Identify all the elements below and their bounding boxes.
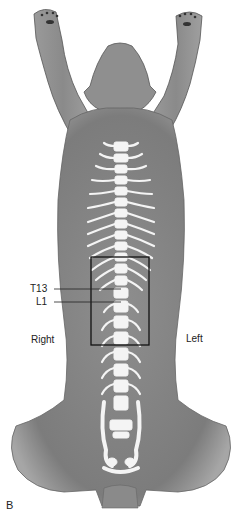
label-left: Left <box>186 334 203 344</box>
label-l1: L1 <box>36 297 47 307</box>
front-leg-left <box>150 12 202 130</box>
label-t13: T13 <box>30 284 47 294</box>
cat-body-illustration <box>0 0 244 518</box>
head <box>84 43 156 110</box>
panel-label: B <box>6 500 13 511</box>
label-right: Right <box>31 335 54 345</box>
tail-base <box>102 485 138 508</box>
anatomical-figure: T13 L1 Right Left B <box>0 0 244 518</box>
